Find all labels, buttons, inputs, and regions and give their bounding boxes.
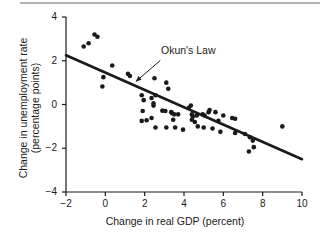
okuns-law-annotation-label: Okun's Law [161, 44, 216, 56]
data-point [128, 74, 133, 79]
data-point [247, 149, 252, 154]
y-axis-title: Change in unemployment rate (percentage … [17, 28, 41, 188]
data-point [181, 127, 186, 132]
data-point [201, 125, 206, 130]
data-point [218, 130, 223, 135]
x-tick-label: 2 [135, 198, 155, 209]
data-point [166, 86, 171, 91]
data-point [100, 84, 105, 89]
data-point [141, 98, 146, 103]
data-point [280, 124, 285, 129]
data-point [171, 118, 176, 123]
data-point [86, 41, 91, 46]
trendline-segment [66, 55, 302, 159]
scatter-plot-canvas [0, 0, 323, 235]
data-point [101, 75, 106, 80]
data-point [139, 93, 144, 98]
okuns-law-trendline [66, 55, 302, 159]
data-point [176, 112, 181, 117]
data-point [164, 80, 169, 85]
y-axis-title-line2: (percentage points) [29, 28, 41, 188]
data-point [164, 125, 169, 130]
data-point [233, 116, 238, 121]
data-point [149, 116, 154, 121]
data-point [140, 109, 145, 114]
y-tick-label: 4 [37, 11, 57, 22]
data-point [110, 63, 115, 68]
data-point [163, 109, 168, 114]
x-tick-label: 0 [95, 198, 115, 209]
data-point [153, 125, 158, 130]
data-point [207, 108, 212, 113]
data-point [193, 120, 198, 125]
x-axis-title: Change in real GDP (percent) [40, 215, 310, 227]
y-axis-title-line1: Change in unemployment rate [17, 28, 29, 188]
x-tick-label: 4 [174, 198, 194, 209]
data-point [81, 44, 86, 49]
data-point [149, 96, 154, 101]
data-point [210, 126, 215, 131]
okuns-law-figure: −4−2024 −20246810 Change in unemployment… [0, 0, 323, 235]
data-point [213, 110, 218, 115]
x-tick-label: 8 [253, 198, 273, 209]
data-point [221, 113, 226, 118]
data-point [95, 34, 100, 39]
data-point [189, 103, 194, 108]
x-axis-ticks [66, 192, 302, 196]
x-tick-label: −2 [56, 198, 76, 209]
x-tick-label: 6 [213, 198, 233, 209]
data-point [144, 118, 149, 123]
data-point [173, 125, 178, 130]
x-tick-label: 10 [292, 198, 312, 209]
data-point [172, 112, 177, 117]
data-point [151, 103, 156, 108]
data-point [152, 76, 157, 81]
data-point [252, 145, 257, 150]
data-point [139, 119, 144, 124]
data-point [195, 124, 200, 129]
